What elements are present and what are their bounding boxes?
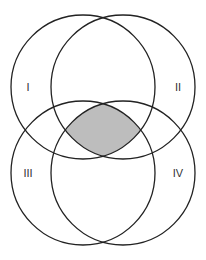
label-ii: II — [175, 81, 181, 93]
label-iii: III — [23, 167, 32, 179]
label-i: I — [26, 81, 29, 93]
label-iv: IV — [173, 167, 184, 179]
venn-diagram: I II III IV — [0, 0, 206, 260]
